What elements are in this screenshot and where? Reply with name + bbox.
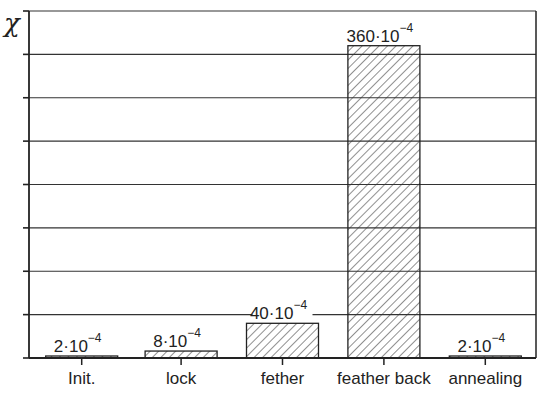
x-tick-label: Init. — [68, 369, 95, 388]
data-label-mantissa: 40·10 — [250, 304, 293, 323]
data-label-exponent: −4 — [293, 298, 307, 312]
x-tick-label: lock — [166, 369, 197, 388]
data-label: 8·10−4 — [153, 326, 201, 351]
bar — [145, 351, 217, 358]
bar — [348, 46, 420, 358]
data-label-exponent: −4 — [400, 21, 414, 35]
data-label-mantissa: 360·10 — [347, 27, 400, 46]
data-label-mantissa: 2·10 — [54, 337, 88, 356]
data-label: 2·10−4 — [457, 331, 505, 356]
y-axis-label: χ — [2, 8, 22, 38]
data-label: 360·10−4 — [347, 21, 414, 46]
data-label-mantissa: 8·10 — [153, 332, 187, 351]
data-label-mantissa: 2·10 — [457, 337, 491, 356]
data-label: 40·10−4 — [250, 298, 307, 323]
data-label-exponent: −4 — [187, 326, 201, 340]
x-tick-label: feather back — [337, 369, 431, 388]
x-tick-label: annealing — [448, 369, 522, 388]
data-label-exponent: −4 — [491, 331, 505, 345]
bar-chart: Init.2·10−4lock8·10−4fether40·10−4feathe… — [0, 0, 543, 396]
x-tick-label: fether — [261, 369, 305, 388]
bar — [247, 323, 319, 358]
gridlines — [29, 11, 536, 315]
data-label: 2·10−4 — [54, 331, 102, 356]
data-label-exponent: −4 — [88, 331, 102, 345]
